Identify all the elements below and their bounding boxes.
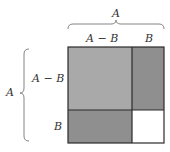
square-diagram (0, 0, 170, 152)
left-label-a-minus-b: A − B (32, 73, 64, 84)
left-label-b: B (54, 121, 62, 132)
left-brace-label: A (6, 87, 14, 98)
top-label-a-minus-b: A − B (86, 33, 118, 44)
region-b-squared (132, 110, 164, 143)
region-top-right-b-strip (132, 47, 164, 110)
region-bottom-left-b-strip (68, 110, 132, 143)
region-a-minus-b-squared (68, 47, 132, 110)
left-brace-icon (20, 49, 29, 141)
top-brace-icon (68, 20, 164, 29)
top-brace-label: A (112, 8, 120, 19)
top-label-b: B (145, 33, 153, 44)
